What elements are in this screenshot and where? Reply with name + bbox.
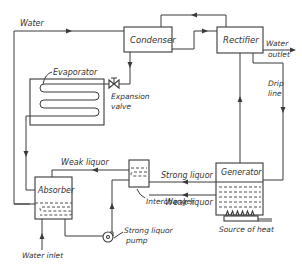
pump-label-2: pump <box>125 236 148 245</box>
pump-to-interchanger-line <box>110 180 130 232</box>
vapor-line-generator-to-rectifier <box>238 53 243 163</box>
drip-line <box>253 53 286 180</box>
vapor-line-rectifier-to-condenser <box>161 13 226 28</box>
absorption-refrigeration-diagram: Water Condenser Rectifier Water outlet E… <box>0 0 302 268</box>
absorber-to-pump-line <box>65 219 103 236</box>
pump-label-1: Strong liquor <box>124 226 174 235</box>
expansion-valve-icon <box>109 78 119 88</box>
generator-label: Generator <box>221 168 262 177</box>
pump-icon <box>103 232 113 242</box>
water-outlet-label-1: Water <box>266 39 289 48</box>
liquid-line-to-valve <box>119 52 133 84</box>
absorber-box <box>35 177 72 219</box>
expansion-valve-label-1: Expansion <box>111 92 150 101</box>
water-inlet-line <box>40 219 45 250</box>
water-outlet-label-2: outlet <box>268 50 291 59</box>
pump-pointer <box>114 232 123 238</box>
water-inlet-label: Water inlet <box>22 251 64 260</box>
expansion-valve-label-2: valve <box>111 102 132 111</box>
condenser-label: Condenser <box>130 35 176 45</box>
interchanger-pointer <box>137 189 145 198</box>
weak-liquor-line-left <box>52 168 129 178</box>
rectifier-label: Rectifier <box>223 35 259 45</box>
water-label: Water <box>20 19 44 28</box>
interchanger-label: Interchanger <box>146 197 195 206</box>
weak-liquor-label-left: Weak liquor <box>61 158 109 167</box>
absorber-label: Absorber <box>37 186 75 195</box>
interchanger-box <box>129 160 149 187</box>
drip-line-label-2: line <box>268 89 282 98</box>
vapor-line-to-absorber <box>26 150 35 190</box>
drip-line-label-1: Drip <box>268 79 284 88</box>
strong-liquor-line <box>149 180 216 185</box>
condenser-to-rectifier-line <box>172 29 217 50</box>
evaporator-box <box>30 79 104 125</box>
evaporator-label: Evaporator <box>53 68 98 77</box>
heat-source-label: Source of heat <box>219 225 275 234</box>
strong-liquor-label: Strong liquor <box>161 171 214 180</box>
